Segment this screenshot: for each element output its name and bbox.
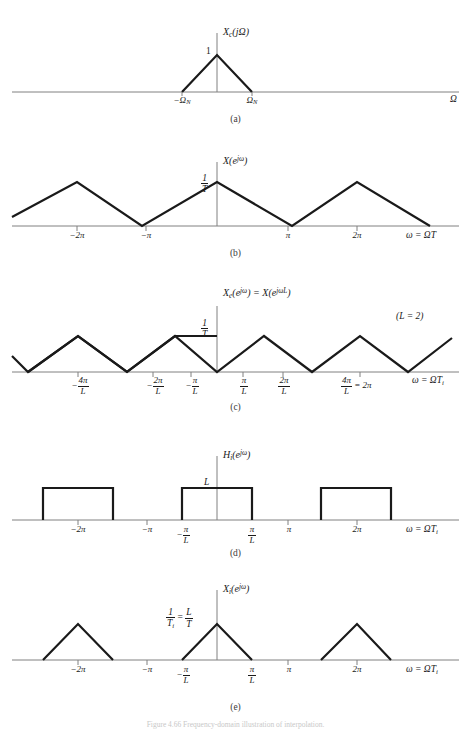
- panel-c-tick-label-4pi-L: 4πL = 2π: [341, 376, 409, 396]
- panel-a-tick-label-neg-omega-n: −ΩN: [166, 96, 198, 106]
- panel-b-letter: (b): [0, 248, 471, 258]
- panel-c-annotation-L: (L = 2): [396, 312, 423, 322]
- panel-a-peak-label: 1: [206, 47, 211, 57]
- signal-rect-right: [321, 488, 391, 520]
- panel-e-tick-label-neg2pi: −2π: [63, 665, 93, 674]
- panel-c: Xe(ejω) = X(ejωL) 1T (L = 2) −4πL −2πL −…: [0, 276, 471, 421]
- panel-d-peak-label: L: [204, 478, 209, 488]
- signal-left: [12, 336, 217, 372]
- panel-a-plot: [0, 0, 471, 118]
- panel-b-signal-label: X(ejω): [223, 156, 247, 166]
- signal-periodic-triangles: [12, 182, 430, 226]
- signal-periodic-triangles: [28, 336, 452, 372]
- panel-e-tick-label-2pi: 2π: [343, 665, 371, 674]
- panel-b-tick-label-pi: π: [276, 231, 300, 240]
- panel-c-xaxis-label: ω = ΩTi: [412, 376, 444, 386]
- panel-c-letter: (c): [0, 402, 471, 412]
- panel-e-signal-label: Xi(ejω): [223, 584, 249, 596]
- panel-b-peak-label: 1T: [201, 173, 208, 195]
- panel-d-tick-label-pi: π: [277, 525, 301, 534]
- panel-d-tick-label-negpi: −π: [133, 525, 161, 534]
- figure-caption: Figure 4.66 Frequency-domain illustratio…: [0, 720, 471, 729]
- panel-a: Xc(jΩ) 1 −ΩN ΩN Ω (a): [0, 0, 471, 130]
- panel-b-tick-label-2pi: 2π: [343, 231, 371, 240]
- panel-d-tick-label-negpi-L: −πL: [166, 525, 200, 545]
- panel-b: X(ejω) 1T −2π −π π 2π ω = ΩT (b): [0, 138, 471, 263]
- panel-c-tick-label-negpi-L: −πL: [175, 376, 209, 396]
- panel-c-tick-label-neg4pi-L: −4πL: [60, 376, 100, 396]
- panel-d-tick-label-pi-L: πL: [238, 525, 266, 545]
- panel-b-tick-label-negpi: −π: [132, 231, 160, 240]
- panel-a-letter: (a): [0, 114, 471, 124]
- panel-e-peak-label: 1Ti = LT: [166, 607, 193, 629]
- panel-d-xaxis-label: ω = ΩTi: [406, 525, 438, 535]
- panel-c-tick-label-2pi-L: 2πL: [269, 376, 299, 396]
- panel-d: Hi(ejω) L −2π −π −πL πL π 2π ω = ΩTi (d): [0, 430, 471, 560]
- panel-e-tick-label-pi-L: πL: [238, 665, 266, 685]
- panel-d-tick-label-neg2pi: −2π: [63, 525, 93, 534]
- panel-d-signal-label: Hi(ejω): [223, 450, 250, 462]
- panel-e: Xi(ejω) 1Ti = LT −2π −π −πL πL π 2π ω = …: [0, 570, 471, 715]
- panel-b-tick-label-neg2pi: −2π: [62, 231, 92, 240]
- panel-e-tick-label-negpi: −π: [133, 665, 161, 674]
- figure-container: Xc(jΩ) 1 −ΩN ΩN Ω (a) X(ejω) 1T −2π −π π…: [0, 0, 471, 730]
- panel-c-signal-label: Xe(ejω) = X(ejωL): [223, 288, 291, 300]
- panel-d-tick-label-2pi: 2π: [343, 525, 371, 534]
- signal-triangle-right: [321, 624, 391, 660]
- panel-e-tick-label-negpi-L: −πL: [166, 665, 200, 685]
- panel-e-xaxis-label: ω = ΩTi: [406, 665, 438, 675]
- panel-b-xaxis-label: ω = ΩT: [406, 231, 436, 241]
- panel-c-peak-label: 1T: [201, 318, 208, 340]
- signal-rect-left: [43, 488, 113, 520]
- panel-a-xaxis-label: Ω: [450, 95, 457, 105]
- panel-c-tick-label-neg2pi-L: −2πL: [135, 376, 175, 396]
- panel-a-tick-label-omega-n: ΩN: [238, 96, 266, 106]
- panel-d-letter: (d): [0, 548, 471, 558]
- panel-c-tick-label-pi-L: πL: [230, 376, 258, 396]
- signal-triangle-left: [43, 624, 113, 660]
- panel-a-signal-label: Xc(jΩ): [223, 27, 249, 39]
- panel-e-tick-label-pi: π: [277, 665, 301, 674]
- panel-e-letter: (e): [0, 702, 471, 712]
